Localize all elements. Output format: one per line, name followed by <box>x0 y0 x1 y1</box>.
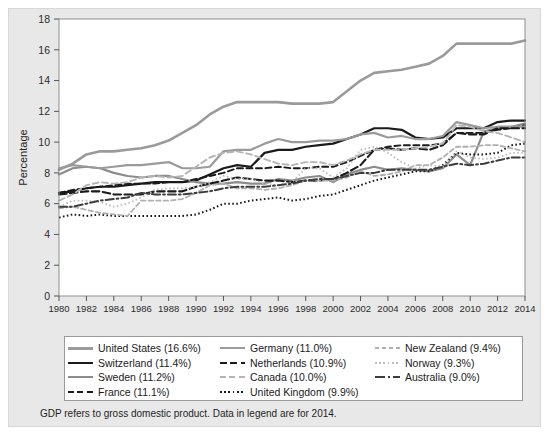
x-tick-label: 2008 <box>432 303 453 314</box>
legend-item-united_kingdom[interactable]: United Kingdom (9.9%) <box>220 385 375 400</box>
legend-swatch-france <box>68 391 93 393</box>
legend-label-norway: Norway (9.3%) <box>405 358 474 369</box>
legend-item-france[interactable]: France (11.1%) <box>68 385 220 400</box>
panel-inner: 0246810121416181980198219841986198819901… <box>9 9 540 426</box>
legend-item-netherlands[interactable]: Netherlands (10.9%) <box>220 356 375 371</box>
legend-swatch-switzerland <box>68 362 93 364</box>
x-tick-label: 2012 <box>487 303 508 314</box>
x-tick-label: 1998 <box>295 303 316 314</box>
x-tick-label: 2002 <box>350 303 371 314</box>
x-tick-label: 1994 <box>240 303 261 314</box>
legend-swatch-norway <box>375 362 400 364</box>
legend-column-2: Germany (11.0%)Netherlands (10.9%)Canada… <box>220 341 375 400</box>
legend-label-united_states: United States (16.6%) <box>98 343 201 354</box>
y-tick-label: 0 <box>44 290 50 302</box>
x-tick-label: 2004 <box>377 303 398 314</box>
y-tick-label: 6 <box>44 197 50 209</box>
figure-container: 0246810121416181980198219841986198819901… <box>0 0 549 435</box>
x-tick-label: 2010 <box>460 303 481 314</box>
legend-item-australia[interactable]: Australia (9.0%) <box>375 370 521 385</box>
legend-swatch-canada <box>220 376 245 378</box>
legend-label-australia: Australia (9.0%) <box>405 372 480 383</box>
x-tick-label: 1996 <box>268 303 289 314</box>
legend-columns: United States (16.6%)Switzerland (11.4%)… <box>65 337 522 400</box>
y-tick-label: 18 <box>38 13 50 25</box>
legend-label-canada: Canada (10.0%) <box>250 372 326 383</box>
y-tick-label: 4 <box>44 228 50 240</box>
legend-swatch-netherlands <box>220 362 245 364</box>
x-tick-label: 1988 <box>158 303 179 314</box>
x-tick-label: 1982 <box>76 303 97 314</box>
legend-label-united_kingdom: United Kingdom (9.9%) <box>250 387 359 398</box>
legend-swatch-sweden <box>68 376 93 378</box>
chart-footnote: GDP refers to gross domestic product. Da… <box>40 408 510 419</box>
x-tick-label: 1984 <box>103 303 124 314</box>
legend-label-new_zealand: New Zealand (9.4%) <box>405 343 501 354</box>
legend-item-germany[interactable]: Germany (11.0%) <box>220 341 375 356</box>
legend-item-new_zealand[interactable]: New Zealand (9.4%) <box>375 341 521 356</box>
x-tick-label: 1980 <box>48 303 69 314</box>
legend-column-1: United States (16.6%)Switzerland (11.4%)… <box>68 341 220 400</box>
chart-legend: United States (16.6%)Switzerland (11.4%)… <box>64 336 523 401</box>
x-tick-label: 1992 <box>213 303 234 314</box>
legend-swatch-australia <box>375 376 400 378</box>
legend-item-united_states[interactable]: United States (16.6%) <box>68 341 220 356</box>
legend-column-3: New Zealand (9.4%)Norway (9.3%)Australia… <box>375 341 521 400</box>
legend-swatch-new_zealand <box>375 347 400 349</box>
x-tick-label: 2014 <box>514 303 535 314</box>
y-tick-label: 2 <box>44 259 50 271</box>
legend-item-switzerland[interactable]: Switzerland (11.4%) <box>68 356 220 371</box>
x-tick-label: 1990 <box>185 303 206 314</box>
y-tick-label: 16 <box>38 44 50 56</box>
legend-label-netherlands: Netherlands (10.9%) <box>250 358 346 369</box>
y-tick-label: 14 <box>38 74 50 86</box>
figure-panel: 0246810121416181980198219841986198819901… <box>8 8 541 427</box>
legend-label-germany: Germany (11.0%) <box>250 343 332 354</box>
legend-label-sweden: Sweden (11.2%) <box>98 372 175 383</box>
x-tick-label: 2000 <box>323 303 344 314</box>
legend-item-canada[interactable]: Canada (10.0%) <box>220 370 375 385</box>
x-tick-label: 1986 <box>131 303 152 314</box>
legend-label-france: France (11.1%) <box>98 387 170 398</box>
plot-area <box>59 19 525 296</box>
legend-swatch-united_kingdom <box>220 391 245 393</box>
y-axis-title: Percentage <box>17 129 29 185</box>
legend-swatch-germany <box>220 347 245 349</box>
legend-item-sweden[interactable]: Sweden (11.2%) <box>68 370 220 385</box>
legend-item-norway[interactable]: Norway (9.3%) <box>375 356 521 371</box>
legend-label-switzerland: Switzerland (11.4%) <box>98 358 191 369</box>
y-tick-label: 8 <box>44 167 50 179</box>
y-tick-label: 12 <box>38 105 50 117</box>
legend-swatch-united_states <box>68 347 93 350</box>
y-tick-label: 10 <box>38 136 50 148</box>
x-tick-label: 2006 <box>405 303 426 314</box>
